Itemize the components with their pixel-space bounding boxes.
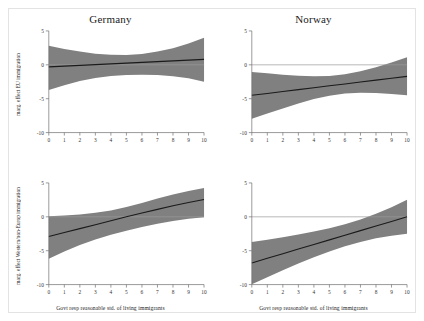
- panel-grid: Germany marg. effect EU immigration 50-5…: [9, 9, 415, 312]
- x-tick-label: 3: [94, 289, 97, 295]
- x-tick-label: 7: [359, 137, 362, 143]
- x-tick-label: 9: [390, 289, 393, 295]
- y-tick-label: 5: [244, 28, 247, 34]
- plot-norway-western: 50-5-10012345678910: [212, 161, 415, 313]
- panel-norway-western: 50-5-10012345678910 Govt resp reasonable…: [212, 161, 415, 313]
- x-tick-label: 3: [297, 137, 300, 143]
- x-tick-label: 1: [63, 137, 66, 143]
- plot-germany-eu: 50-5-10012345678910: [9, 9, 212, 161]
- x-tick-label: 4: [313, 137, 316, 143]
- panel-germany-eu: Germany marg. effect EU immigration 50-5…: [9, 9, 212, 161]
- confidence-band: [49, 188, 204, 259]
- x-tick-label: 3: [94, 137, 97, 143]
- x-tick-label: 1: [266, 137, 269, 143]
- x-tick-label: 5: [328, 289, 331, 295]
- x-tick-label: 8: [172, 137, 175, 143]
- panel-norway-eu: Norway 50-5-10012345678910: [212, 9, 415, 161]
- x-tick-label: 7: [156, 137, 159, 143]
- y-tick-label: -10: [240, 130, 247, 136]
- confidence-band: [252, 57, 407, 118]
- y-tick-label: -10: [37, 130, 44, 136]
- panel-germany-western: marg. effect Western/non-Europ immigrati…: [9, 161, 212, 313]
- x-tick-label: 8: [375, 289, 378, 295]
- x-tick-label: 0: [250, 137, 253, 143]
- x-tick-label: 6: [141, 137, 144, 143]
- x-tick-label: 0: [47, 137, 50, 143]
- x-tick-label: 10: [404, 137, 410, 143]
- x-tick-label: 2: [79, 137, 82, 143]
- x-tick-label: 7: [359, 289, 362, 295]
- y-tick-label: 0: [244, 213, 247, 219]
- y-tick-label: 5: [41, 179, 44, 185]
- xlabel-left: Govt resp reasonable std. of living immi…: [9, 305, 212, 311]
- x-tick-label: 7: [156, 289, 159, 295]
- x-tick-label: 9: [390, 137, 393, 143]
- x-tick-label: 0: [250, 289, 253, 295]
- xlabel-right: Govt resp reasonable std. of living immi…: [212, 305, 415, 311]
- x-tick-label: 6: [344, 289, 347, 295]
- x-tick-label: 2: [282, 137, 285, 143]
- x-tick-label: 1: [266, 289, 269, 295]
- y-tick-label: -5: [39, 247, 44, 253]
- x-tick-label: 9: [187, 289, 190, 295]
- y-tick-label: 0: [41, 62, 44, 68]
- x-tick-label: 8: [375, 137, 378, 143]
- x-tick-label: 5: [125, 137, 128, 143]
- x-tick-label: 9: [187, 137, 190, 143]
- x-tick-label: 10: [404, 289, 410, 295]
- x-tick-label: 0: [47, 289, 50, 295]
- y-tick-label: 0: [244, 62, 247, 68]
- x-tick-label: 3: [297, 289, 300, 295]
- plot-germany-western: 50-5-10012345678910: [9, 161, 212, 313]
- y-tick-label: -10: [240, 281, 247, 287]
- x-tick-label: 5: [328, 137, 331, 143]
- y-tick-label: 0: [41, 213, 44, 219]
- x-tick-label: 10: [201, 289, 207, 295]
- x-tick-label: 5: [125, 289, 128, 295]
- x-tick-label: 6: [344, 137, 347, 143]
- y-tick-label: 5: [41, 28, 44, 34]
- x-tick-label: 2: [282, 289, 285, 295]
- x-tick-label: 4: [313, 289, 316, 295]
- confidence-band: [252, 199, 407, 283]
- y-tick-label: -5: [39, 96, 44, 102]
- x-tick-label: 1: [63, 289, 66, 295]
- confidence-band: [49, 38, 204, 90]
- figure-canvas: Germany marg. effect EU immigration 50-5…: [8, 8, 416, 313]
- x-tick-label: 4: [110, 289, 113, 295]
- y-tick-label: -5: [242, 247, 247, 253]
- plot-norway-eu: 50-5-10012345678910: [212, 9, 415, 161]
- x-tick-label: 2: [79, 289, 82, 295]
- y-tick-label: 5: [244, 179, 247, 185]
- x-tick-label: 6: [141, 289, 144, 295]
- x-tick-label: 4: [110, 137, 113, 143]
- x-tick-label: 10: [201, 137, 207, 143]
- y-tick-label: -10: [37, 281, 44, 287]
- x-tick-label: 8: [172, 289, 175, 295]
- y-tick-label: -5: [242, 96, 247, 102]
